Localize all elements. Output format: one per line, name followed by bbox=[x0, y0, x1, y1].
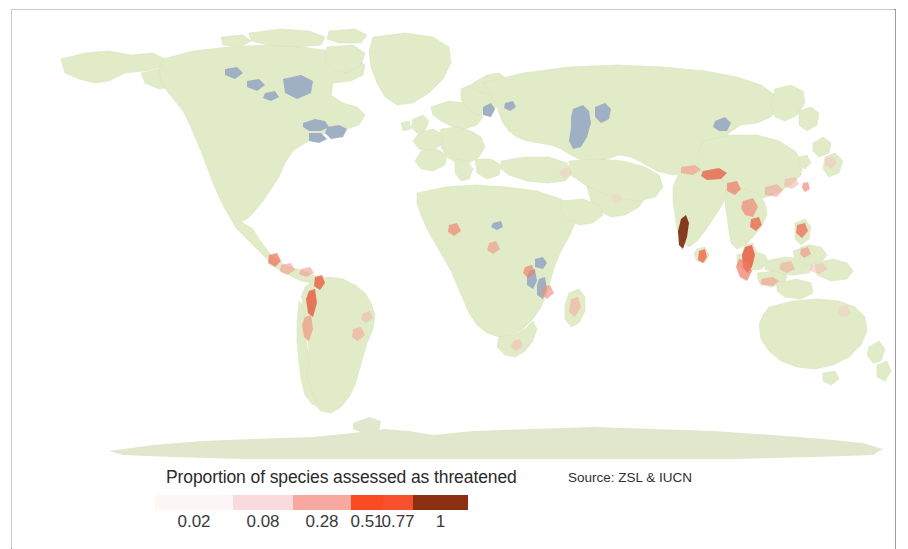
map-legend: Proportion of species assessed as threat… bbox=[0, 462, 908, 540]
legend-tick-5: 1 bbox=[436, 512, 445, 532]
world-map-svg: .land{fill:#e2ebc8;stroke:#d7e1ba;stroke… bbox=[13, 11, 895, 461]
legend-tick-3: 0.51 bbox=[350, 512, 383, 532]
legend-title: Proportion of species assessed as threat… bbox=[166, 467, 517, 488]
legend-tick-4: 0.77 bbox=[381, 512, 414, 532]
legend-tick-1: 0.08 bbox=[246, 512, 279, 532]
source-note: Source: ZSL & IUCN bbox=[568, 470, 692, 485]
legend-swatch-3 bbox=[351, 495, 383, 510]
legend-swatch-0 bbox=[155, 495, 233, 510]
legend-swatch-2 bbox=[293, 495, 351, 510]
legend-colorbar bbox=[155, 495, 468, 510]
legend-swatch-4 bbox=[383, 495, 413, 510]
legend-tick-labels: 0.020.080.280.510.771 bbox=[0, 512, 908, 538]
legend-swatch-5 bbox=[413, 495, 468, 510]
legend-tick-0: 0.02 bbox=[177, 512, 210, 532]
legend-tick-2: 0.28 bbox=[305, 512, 338, 532]
world-map: .land{fill:#e2ebc8;stroke:#d7e1ba;stroke… bbox=[13, 11, 895, 461]
legend-swatch-1 bbox=[233, 495, 293, 510]
